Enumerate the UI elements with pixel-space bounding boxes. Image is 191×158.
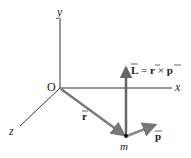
angular-momentum-diagram: y x z O r p m L = r × p	[0, 0, 191, 158]
L-equation-label: L = r × p	[131, 64, 181, 76]
x-axis-label: x	[174, 80, 181, 94]
origin-label: O	[47, 80, 56, 94]
particle-label: m	[120, 140, 128, 152]
p-symbol: p	[167, 64, 173, 76]
r-vector	[61, 89, 124, 135]
particle-dot	[124, 134, 128, 138]
svg-text:L = r × p: L = r × p	[131, 64, 173, 76]
cross-symbol: ×	[155, 64, 167, 76]
equals-sign: =	[138, 64, 150, 76]
p-vector	[127, 125, 155, 136]
L-symbol: L	[131, 64, 138, 76]
y-axis-label: y	[56, 5, 63, 19]
z-axis-label: z	[8, 124, 14, 138]
r-label: r	[82, 110, 87, 122]
p-label: p	[155, 130, 161, 142]
